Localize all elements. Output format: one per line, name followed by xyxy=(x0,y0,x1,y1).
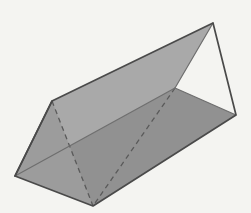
figure-canvas xyxy=(0,0,251,213)
triangular-prism-figure xyxy=(0,0,251,213)
